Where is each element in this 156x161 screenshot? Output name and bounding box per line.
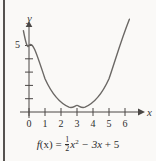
equation-linear-term: − 3x [81,138,102,150]
fraction-denominator: 2 [65,144,69,153]
fraction-numerator: 1 [65,136,69,144]
graph-figure: y x 5 0 1 2 3 4 5 6 f(x) = 1 2 x2 − 3x +… [0,0,156,161]
x-axis-arrowhead [138,109,145,116]
y-axis [26,21,33,118]
equation-equals: = [55,138,61,150]
x-axis-label: x [147,107,152,118]
x-tick-label-4: 4 [87,119,99,129]
y-tick-label-5: 5 [12,40,23,50]
function-equation-caption: f(x) = 1 2 x2 − 3x + 5 [0,136,156,154]
x-tick-label-3: 3 [71,119,83,129]
x-tick-label-0: 0 [23,119,35,129]
y-axis-label: y [27,13,32,24]
x-tick-label-6: 6 [119,119,131,129]
x-axis [20,109,145,116]
x-tick-label-2: 2 [55,119,67,129]
x-tick-label-5: 5 [103,119,115,129]
equation-quadratic-exponent: 2 [75,138,79,146]
equation-argument: (x) [40,138,53,150]
parabola-curve [23,19,129,107]
equation-constant-term: + 5 [105,138,119,150]
x-tick-label-1: 1 [39,119,51,129]
equation-coefficient-fraction: 1 2 [65,136,69,154]
